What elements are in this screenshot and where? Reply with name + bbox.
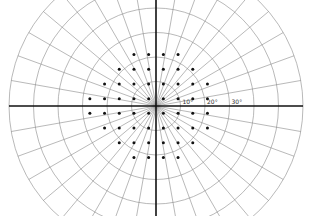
test-point bbox=[162, 127, 165, 130]
test-point bbox=[132, 112, 135, 115]
test-point bbox=[147, 97, 150, 100]
test-point bbox=[118, 127, 121, 130]
meridian-300deg bbox=[156, 106, 230, 216]
meridian-80deg bbox=[156, 0, 182, 106]
test-point bbox=[177, 141, 180, 144]
test-point bbox=[103, 127, 106, 130]
test-point bbox=[177, 68, 180, 71]
test-point bbox=[118, 141, 121, 144]
axes bbox=[9, 0, 303, 216]
test-point bbox=[132, 68, 135, 71]
test-point bbox=[132, 53, 135, 56]
test-point bbox=[206, 112, 209, 115]
test-point bbox=[147, 53, 150, 56]
test-point bbox=[103, 97, 106, 100]
meridian-110deg bbox=[106, 0, 156, 106]
test-point bbox=[162, 156, 165, 159]
meridian-240deg bbox=[83, 106, 157, 216]
test-point bbox=[147, 82, 150, 85]
test-point bbox=[162, 112, 165, 115]
test-point bbox=[147, 112, 150, 115]
test-point bbox=[177, 156, 180, 159]
meridian-280deg bbox=[156, 106, 182, 216]
test-point bbox=[206, 82, 209, 85]
meridian-310deg bbox=[156, 106, 250, 216]
label-20deg: 20° bbox=[207, 98, 218, 105]
label-10deg: 10° bbox=[183, 98, 194, 105]
test-point bbox=[88, 97, 91, 100]
test-point bbox=[177, 53, 180, 56]
visual-field-diagram: 10°20°30° Visual field test grid bbox=[0, 0, 312, 216]
meridian-290deg bbox=[156, 106, 206, 216]
perimetry-grid: 10°20°30° bbox=[0, 0, 312, 216]
test-point bbox=[177, 127, 180, 130]
test-point bbox=[177, 112, 180, 115]
test-point bbox=[147, 141, 150, 144]
test-point bbox=[132, 82, 135, 85]
test-point bbox=[162, 82, 165, 85]
test-point bbox=[162, 68, 165, 71]
test-point bbox=[177, 97, 180, 100]
test-point bbox=[147, 127, 150, 130]
test-point bbox=[118, 112, 121, 115]
test-point bbox=[103, 82, 106, 85]
test-point bbox=[191, 127, 194, 130]
test-point bbox=[191, 112, 194, 115]
label-30deg: 30° bbox=[232, 98, 243, 105]
test-point bbox=[177, 82, 180, 85]
test-point bbox=[132, 141, 135, 144]
test-point bbox=[132, 127, 135, 130]
test-point bbox=[191, 68, 194, 71]
meridian-260deg bbox=[130, 106, 156, 216]
meridian-250deg bbox=[106, 106, 156, 216]
test-point bbox=[118, 82, 121, 85]
test-point bbox=[118, 97, 121, 100]
meridian-230deg bbox=[62, 106, 156, 216]
meridian-120deg bbox=[83, 0, 157, 106]
test-point bbox=[118, 68, 121, 71]
test-point bbox=[132, 97, 135, 100]
meridian-130deg bbox=[62, 0, 156, 106]
test-point bbox=[147, 68, 150, 71]
eccentricity-labels: 10°20°30° bbox=[183, 98, 243, 105]
test-point bbox=[132, 156, 135, 159]
meridian-100deg bbox=[130, 0, 156, 106]
meridian-70deg bbox=[156, 0, 206, 106]
test-point bbox=[88, 112, 91, 115]
test-point bbox=[147, 156, 150, 159]
test-point bbox=[206, 127, 209, 130]
test-point bbox=[162, 141, 165, 144]
meridian-60deg bbox=[156, 0, 230, 106]
meridian-50deg bbox=[156, 0, 250, 106]
test-point bbox=[191, 141, 194, 144]
test-point bbox=[103, 112, 106, 115]
test-point bbox=[191, 82, 194, 85]
test-point bbox=[162, 53, 165, 56]
test-point bbox=[162, 97, 165, 100]
